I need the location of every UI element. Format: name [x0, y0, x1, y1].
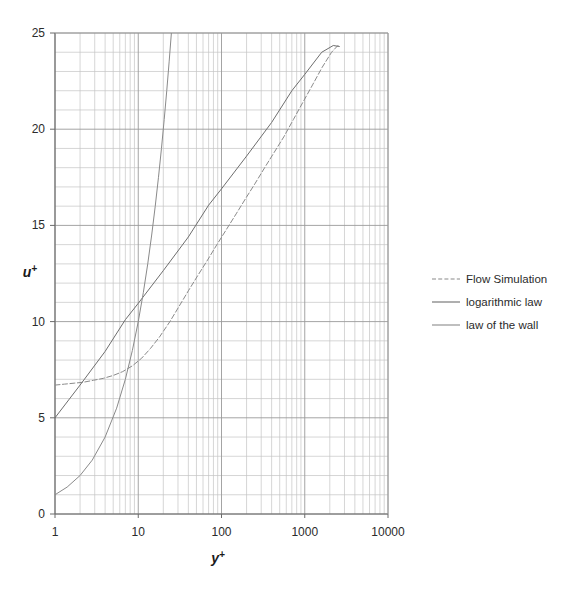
y-tick-label: 5	[38, 411, 45, 425]
x-tick-label: 10000	[371, 525, 405, 539]
legend-item-label: law of the wall	[466, 319, 538, 331]
x-tick-label: 10	[132, 525, 146, 539]
legend-item-label: logarithmic law	[466, 296, 543, 308]
y-tick-label: 15	[32, 218, 46, 232]
y-tick-label: 0	[38, 507, 45, 521]
x-tick-label: 1	[52, 525, 59, 539]
x-tick-label: 100	[211, 525, 231, 539]
legend-item-label: Flow Simulation	[466, 273, 547, 285]
y-tick-label: 20	[32, 122, 46, 136]
y-tick-label: 10	[32, 315, 46, 329]
chart-figure: 110100100010000 0510152025 y+ u+ Flow Si…	[0, 0, 581, 593]
x-tick-label: 1000	[291, 525, 318, 539]
y-tick-label: 25	[32, 26, 46, 40]
